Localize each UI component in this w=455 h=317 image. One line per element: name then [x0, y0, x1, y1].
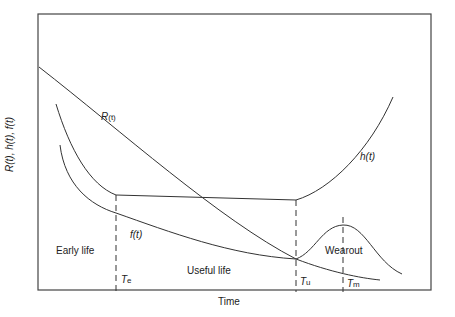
reliability-label-sub: (t): [108, 113, 116, 122]
useful-life-label: Useful life: [187, 266, 231, 276]
early-life-label: Early life: [56, 246, 94, 256]
x-axis-label: Time: [218, 297, 240, 307]
tu-sub: u: [306, 278, 310, 287]
hazard-label: h(t): [360, 152, 375, 162]
wearout-label: Wearout: [325, 246, 363, 256]
tm-sub: m: [353, 280, 360, 289]
tu-label: Tu: [300, 277, 311, 287]
tm-label: Tm: [347, 279, 360, 289]
reliability-label: R(t): [101, 112, 116, 122]
failure-density-curve: [60, 145, 296, 259]
y-axis-label: R(t), h(t), f(t): [4, 117, 15, 172]
te-sub: e: [127, 276, 131, 285]
te-label: Te: [121, 275, 132, 285]
density-label: f(t): [130, 230, 142, 240]
